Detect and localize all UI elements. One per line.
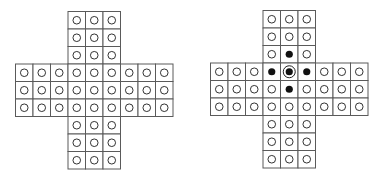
empty-hole-icon [90, 69, 98, 77]
empty-hole-icon [108, 104, 116, 112]
board-cell [316, 63, 334, 81]
board-cell [298, 98, 316, 116]
board-cell [103, 99, 121, 117]
board-cell [68, 117, 86, 135]
empty-hole-icon [160, 86, 168, 94]
board-cell [298, 133, 316, 151]
empty-hole-icon [215, 103, 223, 111]
board-cell [246, 81, 264, 99]
board-cell [333, 81, 351, 99]
empty-hole-icon [250, 85, 258, 93]
empty-hole-icon [73, 69, 81, 77]
board-cell [103, 64, 121, 82]
empty-hole-icon [125, 86, 133, 94]
peg-board-left [15, 11, 173, 169]
board-cell [263, 11, 281, 29]
board-cell [138, 82, 156, 100]
board-cell [263, 133, 281, 151]
board-cell [51, 99, 69, 117]
empty-hole-icon [303, 50, 311, 58]
empty-hole-icon [20, 86, 28, 94]
empty-hole-icon [108, 139, 116, 147]
board-cell [103, 152, 121, 170]
empty-hole-icon [268, 33, 276, 41]
empty-hole-icon [355, 85, 363, 93]
empty-hole-icon [338, 68, 346, 76]
board-cell [156, 82, 174, 100]
empty-hole-icon [90, 86, 98, 94]
board-cell [263, 63, 281, 81]
board-cell [228, 98, 246, 116]
empty-hole-icon [20, 104, 28, 112]
board-cell [351, 81, 369, 99]
empty-hole-icon [160, 104, 168, 112]
empty-hole-icon [108, 69, 116, 77]
board-cell [263, 46, 281, 64]
empty-hole-icon [90, 156, 98, 164]
empty-hole-icon [143, 69, 151, 77]
empty-hole-icon [90, 121, 98, 129]
board-cell [33, 99, 51, 117]
board-cell [33, 82, 51, 100]
board-cell [121, 64, 139, 82]
board-cell [281, 81, 299, 99]
board-cell [121, 82, 139, 100]
board-cell [103, 29, 121, 47]
board-cell [281, 116, 299, 134]
empty-hole-icon [73, 139, 81, 147]
board-cell [281, 28, 299, 46]
board-cell [86, 117, 104, 135]
empty-hole-icon [233, 68, 241, 76]
board-cell [16, 82, 34, 100]
board-cell [103, 82, 121, 100]
board-cell [156, 64, 174, 82]
board-cell [86, 64, 104, 82]
board-cell [298, 151, 316, 169]
filled-peg-icon [286, 51, 293, 58]
peg-board-right [210, 10, 368, 168]
empty-hole-icon [285, 103, 293, 111]
empty-hole-icon [268, 138, 276, 146]
empty-hole-icon [108, 16, 116, 24]
filled-peg-icon [268, 68, 275, 75]
empty-hole-icon [108, 34, 116, 42]
board-cell [351, 63, 369, 81]
board-cell [51, 82, 69, 100]
filled-peg-icon [286, 86, 293, 93]
empty-hole-icon [160, 69, 168, 77]
empty-hole-icon [55, 86, 63, 94]
empty-hole-icon [303, 85, 311, 93]
filled-peg-icon [303, 68, 310, 75]
empty-hole-icon [355, 68, 363, 76]
board-cell [68, 134, 86, 152]
empty-hole-icon [250, 68, 258, 76]
empty-hole-icon [215, 85, 223, 93]
board-cell [86, 134, 104, 152]
board-cell [138, 64, 156, 82]
board-cell [298, 81, 316, 99]
board-cell [103, 134, 121, 152]
empty-hole-icon [143, 104, 151, 112]
empty-hole-icon [303, 33, 311, 41]
board-cell [68, 12, 86, 30]
empty-hole-icon [268, 120, 276, 128]
board-cell [298, 46, 316, 64]
empty-hole-icon [73, 34, 81, 42]
empty-hole-icon [73, 121, 81, 129]
empty-hole-icon [320, 68, 328, 76]
empty-hole-icon [233, 85, 241, 93]
board-cell [298, 28, 316, 46]
board-cell [86, 29, 104, 47]
board-cell [351, 98, 369, 116]
empty-hole-icon [20, 69, 28, 77]
board-cell [263, 81, 281, 99]
empty-hole-icon [73, 156, 81, 164]
empty-hole-icon [303, 15, 311, 23]
empty-hole-icon [285, 33, 293, 41]
board-cell [246, 98, 264, 116]
board-cell [228, 81, 246, 99]
board-cell [281, 133, 299, 151]
empty-hole-icon [303, 120, 311, 128]
board-left-svg [15, 11, 173, 169]
empty-hole-icon [303, 103, 311, 111]
